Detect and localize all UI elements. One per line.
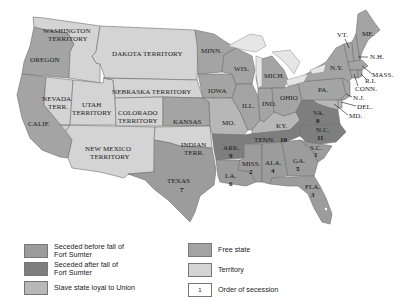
label-new-hampshire: N.H. <box>370 53 384 61</box>
label-nebraska-territory: NEBRASKA TERRITORY <box>112 88 192 96</box>
legend-item-slave-loyal: Slave state loyal to Union <box>24 281 135 295</box>
label-louisiana: LA. <box>225 172 237 180</box>
legend-label: Seceded after fall of Fort Sumter <box>54 261 118 276</box>
label-virginia: VA. <box>313 109 324 117</box>
city-marker <box>249 189 251 191</box>
label-pennsylvania: PA. <box>318 86 329 94</box>
legend-swatch-territory <box>188 263 212 277</box>
label-minnesota: MINN. <box>201 47 222 55</box>
order-georgia: 5 <box>296 165 300 173</box>
label-ohio: OHIO <box>280 94 298 102</box>
legend-label: Territory <box>218 266 244 274</box>
label-vermont: VT. <box>337 31 348 39</box>
label-utah-territory: UTAH <box>82 101 101 109</box>
legend-swatch-free-state <box>188 243 212 257</box>
label-missouri: MO. <box>222 119 235 127</box>
label-north-carolina: N.C. <box>316 126 330 134</box>
legend-label: Order of secession <box>218 286 278 294</box>
label-indian-territory-2: TERR. <box>184 149 204 157</box>
order-louisiana: 6 <box>229 180 233 188</box>
legend-label: Slave state loyal to Union <box>54 284 135 292</box>
label-texas: TEXAS <box>167 177 190 185</box>
civil-war-secession-map: WASHINGTON TERRITORY OREGON DAKOTA TERRI… <box>0 0 405 245</box>
legend-item-seceded-after: Seceded after fall of Fort Sumter <box>24 261 118 276</box>
order-north-carolina: 11 <box>317 134 324 142</box>
label-arkansas: ARK. <box>223 144 240 152</box>
label-utah-territory-2: TERRITORY <box>72 109 112 117</box>
label-colorado-territory: COLORADO <box>118 109 158 117</box>
label-delaware: DEL. <box>357 103 373 111</box>
legend-swatch-seceded-before <box>24 244 48 258</box>
label-oregon: OREGON <box>30 56 60 64</box>
label-connecticut: CONN. <box>355 85 377 93</box>
label-nevada-territory: NEVADA <box>42 95 71 103</box>
label-new-mexico-territory-2: TERRITORY <box>90 153 130 161</box>
order-florida: 3 <box>311 191 315 199</box>
label-georgia: GA. <box>293 157 305 165</box>
label-washington-territory: WASHINGTON <box>43 27 91 35</box>
label-kansas: KANSAS <box>173 118 202 126</box>
region-florida <box>270 176 332 224</box>
label-california: CALIF. <box>28 120 50 128</box>
order-alabama: 4 <box>271 167 275 175</box>
label-indiana: IND. <box>262 100 277 108</box>
label-kentucky: KY. <box>276 122 287 130</box>
order-texas: 7 <box>180 186 184 194</box>
legend-item-seceded-before: Seceded before fall of Fort Sumter <box>24 243 124 258</box>
label-illinois: ILL. <box>242 102 255 110</box>
legend-item-free-state: Free state <box>188 243 250 257</box>
label-michigan: MICH. <box>264 72 285 80</box>
legend-swatch-slave-loyal <box>24 281 48 295</box>
label-rhode-island: R.I. <box>365 77 376 85</box>
label-tennessee: TENN. <box>254 136 275 144</box>
label-alabama: ALA. <box>265 159 282 167</box>
label-washington-territory-2: TERRITORY <box>48 35 88 43</box>
map-legend: Seceded before fall of Fort Sumter Seced… <box>0 244 405 308</box>
legend-swatch-seceded-after <box>24 262 48 276</box>
label-maryland: MD. <box>349 112 362 120</box>
legend-label: Free state <box>218 246 250 254</box>
order-tennessee: 10 <box>280 136 288 144</box>
order-arkansas: 9 <box>229 152 233 160</box>
order-virginia: 8 <box>316 117 320 125</box>
label-wisconsin: WIS. <box>234 65 249 73</box>
order-south-carolina: 1 <box>314 151 318 159</box>
label-new-york: N.Y. <box>330 64 343 72</box>
label-florida: FLA. <box>305 183 321 191</box>
legend-label: Seceded before fall of Fort Sumter <box>54 243 124 258</box>
label-new-jersey: N.J. <box>353 94 365 102</box>
label-colorado-territory-2: TERRITORY <box>118 117 158 125</box>
label-dakota-territory: DAKOTA TERRITORY <box>112 50 183 58</box>
label-indian-territory: INDIAN <box>181 141 206 149</box>
legend-swatch-order: 1 <box>188 283 212 297</box>
label-mississippi: MISS. <box>242 160 261 168</box>
order-mississippi: 2 <box>249 168 253 176</box>
label-new-mexico-territory: NEW MEXICO <box>85 145 131 153</box>
legend-item-territory: Territory <box>188 263 244 277</box>
city-marker <box>325 208 327 210</box>
region-delaware <box>338 100 342 108</box>
label-maine: ME. <box>362 30 375 38</box>
label-nevada-territory-2: TERR. <box>48 103 68 111</box>
legend-item-order-of-secession: 1 Order of secession <box>188 283 278 297</box>
label-iowa: IOWA <box>208 87 227 95</box>
